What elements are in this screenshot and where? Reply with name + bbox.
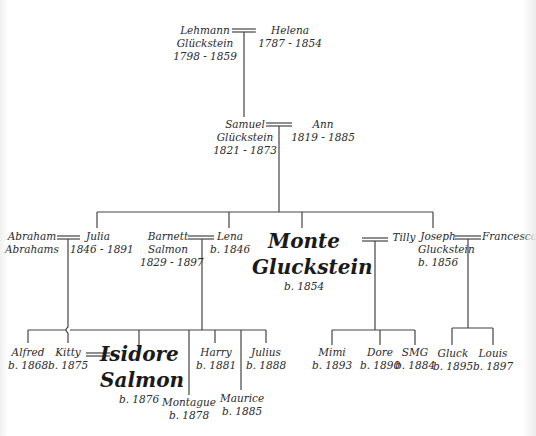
person-samuel: Samuel Glückstein 1821 - 1873 <box>210 118 280 157</box>
person-monte: Monte Gluckstein b. 1854 <box>252 228 356 293</box>
person-harry: Harry b. 1881 <box>194 346 238 372</box>
person-lehmann: Lehmann Glückstein 1798 - 1859 <box>170 24 240 63</box>
person-julius: Julius b. 1888 <box>244 346 288 372</box>
person-ann: Ann 1819 - 1885 <box>288 118 358 144</box>
person-mimi: Mimi b. 1893 <box>308 346 356 372</box>
person-kitty: Kitty b. 1875 <box>46 346 90 372</box>
person-montague: Montague b. 1878 <box>160 396 218 422</box>
person-julia: Julia 1846 - 1891 <box>70 230 126 256</box>
person-helena: Helena 1787 - 1854 <box>255 24 325 50</box>
person-joseph: Joseph Gluckstein b. 1856 <box>418 230 458 269</box>
person-abraham: Abraham Abrahams <box>4 230 60 256</box>
person-louis: Louis b. 1897 <box>470 347 516 373</box>
person-maurice: Maurice b. 1885 <box>216 392 268 418</box>
person-barnett: Barnett Salmon 1829 - 1897 <box>140 230 196 269</box>
page-edge-shadow-left <box>0 0 8 436</box>
person-lena: Lena b. 1846 <box>206 230 254 256</box>
person-tilly: Tilly <box>388 231 420 244</box>
person-alfred: Alfred b. 1868 <box>4 346 52 372</box>
page-edge-shadow <box>522 0 536 436</box>
